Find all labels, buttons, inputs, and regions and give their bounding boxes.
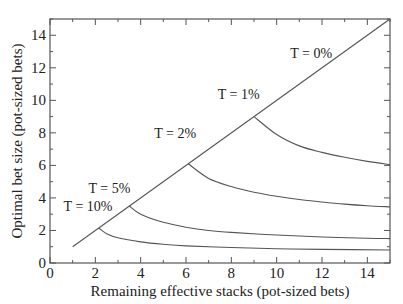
y-tick-label: 10 bbox=[31, 92, 46, 108]
plot-area: 0246810121402468101214T = 0%T = 1%T = 2%… bbox=[31, 19, 390, 281]
y-tick-label: 4 bbox=[39, 190, 47, 206]
series-annotation: T = 0% bbox=[290, 46, 332, 61]
series-line bbox=[99, 228, 390, 250]
x-axis-label: Remaining effective stacks (pot-sized be… bbox=[91, 283, 350, 300]
x-tick-label: 14 bbox=[360, 265, 376, 281]
series-line bbox=[129, 206, 390, 239]
series-annotation: T = 10% bbox=[64, 199, 113, 214]
y-axis-label: Optimal bet size (pot-sized bets) bbox=[9, 44, 26, 239]
y-tick-label: 0 bbox=[39, 255, 47, 271]
series-line bbox=[254, 117, 390, 165]
x-tick-label: 2 bbox=[92, 265, 100, 281]
x-tick-label: 4 bbox=[137, 265, 145, 281]
y-tick-label: 12 bbox=[31, 60, 46, 76]
y-tick-label: 14 bbox=[31, 27, 47, 43]
series-annotation: T = 5% bbox=[89, 181, 131, 196]
series-annotation: T = 2% bbox=[154, 126, 196, 141]
series-line bbox=[188, 164, 390, 207]
y-tick-label: 6 bbox=[39, 157, 47, 173]
x-tick-label: 12 bbox=[315, 265, 330, 281]
x-tick-label: 8 bbox=[228, 265, 236, 281]
y-tick-label: 2 bbox=[39, 222, 47, 238]
y-tick-label: 8 bbox=[39, 125, 47, 141]
series-annotation: T = 1% bbox=[218, 87, 260, 102]
x-tick-label: 10 bbox=[269, 265, 284, 281]
x-tick-label: 6 bbox=[182, 265, 190, 281]
series-line bbox=[73, 19, 390, 247]
line-chart: 0246810121402468101214T = 0%T = 1%T = 2%… bbox=[0, 0, 403, 304]
x-tick-label: 0 bbox=[46, 265, 54, 281]
